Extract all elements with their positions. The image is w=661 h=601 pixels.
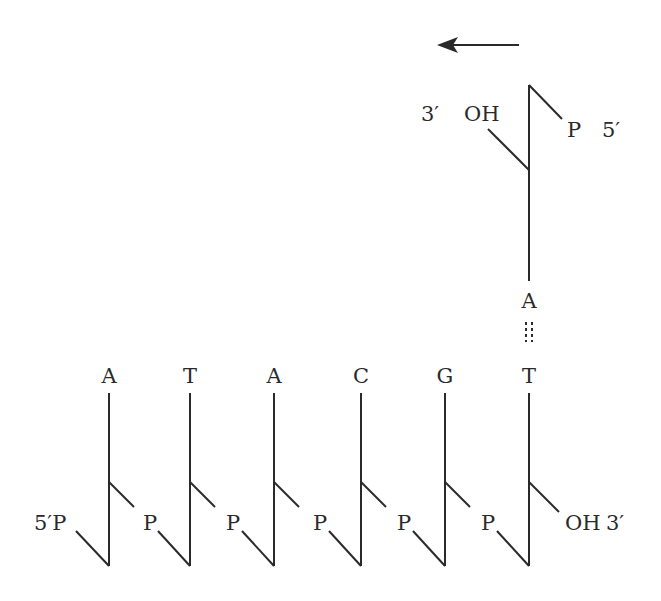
bottom-strand: A T A C G T 5′P P P P P P OH 3′ bbox=[34, 364, 624, 566]
phosphate-label: P bbox=[481, 511, 495, 535]
top-base-label: A bbox=[520, 289, 537, 313]
direction-arrow-icon bbox=[437, 37, 519, 53]
bottom-five-prime-label: 5′P bbox=[34, 511, 66, 535]
base-label: A bbox=[100, 364, 117, 388]
top-oh-label: OH bbox=[464, 102, 500, 126]
base-label: T bbox=[522, 364, 536, 388]
dna-replication-diagram: 3′ OH P 5′ A A T A C G T bbox=[0, 0, 661, 601]
phosphate-label: P bbox=[143, 511, 157, 535]
top-five-prime-label: 5′ bbox=[602, 118, 620, 142]
top-three-prime-label: 3′ bbox=[421, 102, 439, 126]
base-label: C bbox=[353, 364, 369, 388]
bottom-oh-label: OH bbox=[565, 511, 601, 535]
top-strand: 3′ OH P 5′ A bbox=[421, 85, 620, 313]
base-label: G bbox=[437, 364, 454, 388]
top-phosphate-label: P bbox=[567, 118, 581, 142]
phosphate-label: P bbox=[226, 511, 240, 535]
base-label: T bbox=[183, 364, 197, 388]
phosphate-label: P bbox=[397, 511, 411, 535]
hydrogen-bond bbox=[526, 322, 532, 342]
phosphate-label: P bbox=[313, 511, 327, 535]
base-label: A bbox=[265, 364, 282, 388]
bottom-three-prime-label: 3′ bbox=[606, 511, 624, 535]
